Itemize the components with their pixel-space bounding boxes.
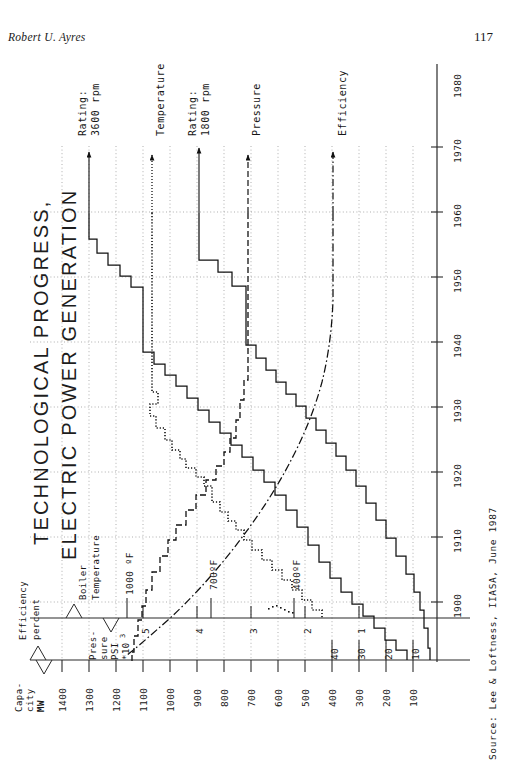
capacity-tick-700: 700 <box>246 689 257 707</box>
capacity-tick-400: 400 <box>327 689 338 707</box>
axis-capacity-caption-unit: MW <box>36 700 46 712</box>
axis-temperature-caption-line1: Boiler <box>78 564 88 600</box>
pressure-tick-1: 1 <box>356 628 367 634</box>
capacity-tick-1200: 1200 <box>111 688 122 712</box>
series-rating-1800-rpm <box>199 213 430 660</box>
capacity-tick-600: 600 <box>273 689 284 707</box>
figure-technological-progress: TECHNOLOGICAL PROGRESS, ELECTRIC POWER G… <box>0 0 507 777</box>
figure-source-note: Source: Lee & Loftness, IIASA, June 1987 <box>487 507 498 760</box>
axis-capacity-caption-line2: city <box>25 688 35 712</box>
capacity-tick-900: 900 <box>192 689 203 707</box>
axis-temperature-caption-line2: Temperature <box>91 535 101 600</box>
pressure-tick-3: 3 <box>248 628 259 634</box>
year-tick-1920: 1920 <box>452 464 463 488</box>
axis-capacity-ticks <box>62 660 413 672</box>
axis-pressure-caption-line1: Pres- <box>88 630 98 660</box>
grid-capacity <box>62 146 413 660</box>
pressure-tick-5: 5 <box>140 628 151 634</box>
legend-label-pressure: Pressure <box>251 83 263 136</box>
year-tick-1960: 1960 <box>452 204 463 228</box>
pressure-tick-2: 2 <box>302 628 313 634</box>
year-tick-1980: 1980 <box>452 74 463 98</box>
efficiency-tick-30: 30 <box>356 648 367 660</box>
axis-pressure-caption-line4: *10 <box>121 642 131 660</box>
capacity-tick-1300: 1300 <box>84 688 95 712</box>
axis-pressure-caption-exponent: 3 <box>118 633 128 638</box>
capacity-tick-1000: 1000 <box>165 688 176 712</box>
legend-label-rating-1800-line1: Rating: <box>187 90 199 136</box>
legend-label-temperature: Temperature <box>155 63 167 136</box>
legend-label-efficiency: Efficiency <box>337 70 349 136</box>
figure-title-line-2: ELECTRIC POWER GENERATION <box>58 189 81 560</box>
axis-pressure-ticks <box>143 606 359 618</box>
axis-efficiency-caption-line2: percent <box>31 599 41 640</box>
pressure-tick-4: 4 <box>194 628 205 634</box>
capacity-tick-300: 300 <box>354 689 365 707</box>
temperature-tick-400f: 400ºF <box>291 559 302 590</box>
axis-efficiency-caption-line1: Efficiency <box>18 581 28 640</box>
capacity-tick-800: 800 <box>219 689 230 707</box>
year-tick-1910: 1910 <box>452 529 463 553</box>
capacity-tick-100: 100 <box>408 689 419 707</box>
temperature-tick-700f: 700ºF <box>208 559 219 590</box>
data-point-cluster <box>268 605 294 614</box>
efficiency-tick-20: 20 <box>383 648 394 660</box>
capacity-tick-1400: 1400 <box>57 688 68 712</box>
year-tick-1930: 1930 <box>452 399 463 423</box>
year-tick-1970: 1970 <box>452 139 463 163</box>
year-tick-1900: 1900 <box>452 594 463 618</box>
figure-title-line-1: TECHNOLOGICAL PROGRESS, <box>30 200 53 545</box>
legend-label-rating-3600-line1: Rating: <box>77 90 89 136</box>
capacity-tick-1100: 1100 <box>138 688 149 712</box>
year-tick-1940: 1940 <box>452 334 463 358</box>
series-temperature <box>150 213 322 618</box>
year-tick-1950: 1950 <box>452 269 463 293</box>
efficiency-tick-40: 40 <box>329 648 340 660</box>
capacity-tick-200: 200 <box>381 689 392 707</box>
temperature-tick-1000f: 1000 ºF <box>124 552 135 595</box>
axis-capacity-caption-line1: Capa- <box>14 682 24 712</box>
legend-label-rating-3600-line2: 3600 rpm <box>90 83 102 136</box>
axis-pressure-caption-line2: sure <box>99 636 109 660</box>
capacity-tick-500: 500 <box>300 689 311 707</box>
legend-label-rating-1800-line2: 1800 rpm <box>200 83 212 136</box>
efficiency-tick-10: 10 <box>410 648 421 660</box>
axis-pressure-caption-line3: PSI <box>110 642 120 660</box>
